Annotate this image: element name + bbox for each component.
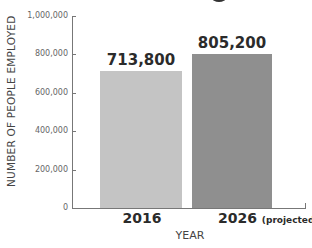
x-axis-label: YEAR xyxy=(160,229,220,242)
x-axis-end-tick xyxy=(305,203,306,209)
y-tick-label: 1,000,000 xyxy=(16,11,68,20)
y-tick-label: 400,000 xyxy=(16,126,68,135)
category-label-2026: 2026 (projected) xyxy=(218,210,312,226)
bar-2026 xyxy=(192,54,272,208)
value-label-2016: 713,800 xyxy=(100,51,182,69)
y-tick-label: 200,000 xyxy=(16,165,68,174)
category-label-2016: 2016 xyxy=(112,210,172,226)
y-tick xyxy=(72,16,76,17)
projected-note: (projected) xyxy=(262,215,312,225)
title-fragment xyxy=(212,0,226,2)
y-axis xyxy=(72,16,73,209)
y-tick-label: 800,000 xyxy=(16,49,68,58)
y-tick xyxy=(72,131,76,132)
bar-2016 xyxy=(100,71,182,208)
y-tick xyxy=(72,54,76,55)
y-tick-label: 0 xyxy=(16,203,68,212)
y-tick xyxy=(72,93,76,94)
y-tick-label: 600,000 xyxy=(16,88,68,97)
value-label-2026: 805,200 xyxy=(192,34,272,52)
x-axis xyxy=(72,208,306,209)
y-tick xyxy=(72,170,76,171)
